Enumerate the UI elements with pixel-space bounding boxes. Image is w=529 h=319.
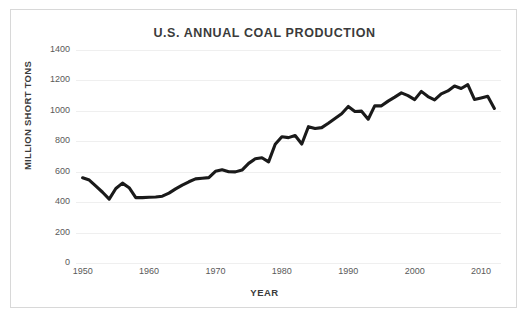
x-tick-label: 1960 (119, 266, 179, 276)
y-tick-label: 1200 (10, 74, 70, 84)
chart-title: U.S. ANNUAL COAL PRODUCTION (11, 26, 518, 40)
x-tick-label: 2010 (451, 266, 511, 276)
series-canvas (76, 50, 501, 263)
y-tick-label: 1400 (10, 44, 70, 54)
gridline (76, 263, 501, 264)
x-tick-label: 1970 (185, 266, 245, 276)
plot-area: 1400120010008006004002000 19501960197019… (76, 50, 501, 263)
x-tick-label: 1980 (252, 266, 312, 276)
y-tick-label: 1000 (10, 105, 70, 115)
y-tick-label: 200 (10, 227, 70, 237)
x-tick-label: 1950 (53, 266, 113, 276)
x-tick-label: 1990 (318, 266, 378, 276)
x-axis-label: YEAR (11, 287, 518, 298)
x-tick-label: 2000 (385, 266, 445, 276)
y-tick-label: 800 (10, 135, 70, 145)
data-line (83, 85, 495, 199)
y-tick-label: 400 (10, 196, 70, 206)
chart-frame: U.S. ANNUAL COAL PRODUCTION MILLION SHOR… (10, 9, 517, 308)
y-tick-label: 600 (10, 166, 70, 176)
